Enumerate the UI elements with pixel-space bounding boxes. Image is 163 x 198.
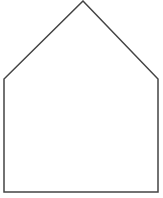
- pentagon-house-shape: [4, 1, 158, 192]
- diagram-canvas: [0, 0, 163, 198]
